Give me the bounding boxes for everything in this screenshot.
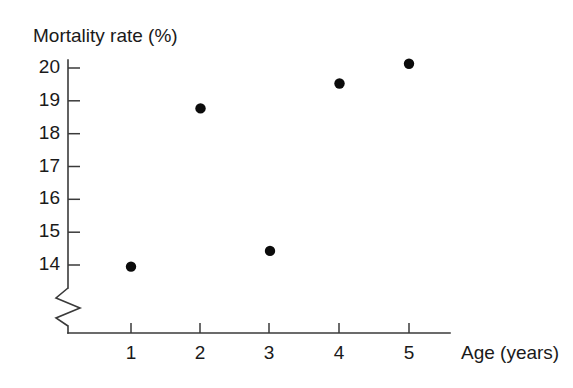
data-point — [126, 261, 136, 271]
data-point — [404, 59, 414, 69]
axis-break-zigzag — [56, 288, 80, 326]
data-point — [334, 78, 344, 88]
scatter-chart: Mortality rate (%) 20 19 18 17 16 15 1 — [0, 0, 573, 388]
data-point — [265, 246, 275, 256]
chart-canvas: Mortality rate (%) 20 19 18 17 16 15 1 — [0, 0, 573, 388]
y-tick-label-14: 14 — [39, 253, 61, 274]
y-tick-label-16: 16 — [39, 187, 60, 208]
y-axis-ticks — [68, 68, 80, 265]
y-axis-tick-labels: 20 19 18 17 16 15 14 — [39, 56, 61, 274]
y-tick-label-20: 20 — [39, 56, 60, 77]
x-tick-label-1: 1 — [126, 342, 137, 363]
data-point — [195, 103, 205, 113]
x-tick-label-5: 5 — [404, 342, 415, 363]
x-axis-tick-labels: 1 2 3 4 5 — [126, 342, 415, 363]
x-tick-label-2: 2 — [195, 342, 206, 363]
y-tick-label-17: 17 — [39, 155, 60, 176]
x-axis-ticks — [131, 323, 409, 333]
x-tick-label-4: 4 — [334, 342, 345, 363]
x-tick-label-3: 3 — [264, 342, 275, 363]
y-tick-label-19: 19 — [39, 89, 60, 110]
y-tick-label-15: 15 — [39, 220, 60, 241]
data-point-group — [126, 59, 414, 272]
x-axis-title: Age (years) — [461, 342, 559, 363]
y-axis-title: Mortality rate (%) — [33, 25, 178, 46]
y-tick-label-18: 18 — [39, 122, 60, 143]
